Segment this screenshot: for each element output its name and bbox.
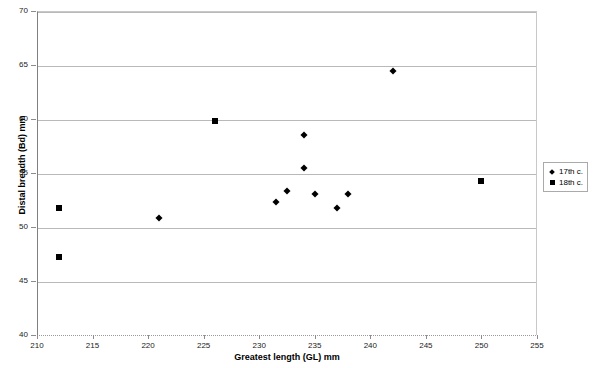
- x-tick-230: [259, 335, 260, 339]
- x-tick-label: 235: [295, 341, 335, 350]
- gridline-y-65: [38, 66, 536, 67]
- legend-item-18th-c[interactable]: 18th c.: [547, 177, 583, 188]
- y-tick-label: 45: [0, 276, 28, 285]
- gridline-y-70: [38, 12, 536, 13]
- chart-legend: 17th c. 18th c.: [543, 162, 588, 192]
- x-tick-label: 230: [239, 341, 279, 350]
- x-tick-210: [37, 335, 38, 339]
- x-tick-250: [481, 335, 482, 339]
- y-tick-label: 70: [0, 6, 28, 15]
- plot-area: [37, 11, 537, 335]
- y-tick-label: 55: [0, 168, 28, 177]
- y-tick-65: [31, 65, 36, 66]
- x-tick-255: [537, 335, 538, 339]
- x-tick-215: [93, 335, 94, 339]
- scatter-chart-figure: Greatest length (GL) mm Distal breadth (…: [0, 0, 594, 368]
- y-tick-label: 60: [0, 114, 28, 123]
- data-point: [478, 178, 484, 184]
- x-tick-label: 255: [517, 341, 557, 350]
- data-point: [56, 205, 62, 211]
- y-tick-60: [31, 119, 36, 120]
- x-tick-label: 225: [184, 341, 224, 350]
- y-tick-70: [31, 11, 36, 12]
- y-axis-title: Distal breadth (Bd) mm: [17, 65, 27, 265]
- x-axis-title: Greatest length (GL) mm: [0, 352, 574, 362]
- square-marker-icon: [547, 180, 557, 185]
- y-tick-55: [31, 173, 36, 174]
- legend-item-label: 17th c.: [557, 167, 583, 176]
- data-point: [56, 254, 62, 260]
- gridline-y-60: [38, 120, 536, 121]
- y-tick-50: [31, 227, 36, 228]
- x-tick-225: [204, 335, 205, 339]
- data-point: [212, 118, 218, 124]
- y-tick-label: 65: [0, 60, 28, 69]
- x-tick-245: [426, 335, 427, 339]
- y-tick-40: [31, 335, 36, 336]
- x-tick-label: 210: [17, 341, 57, 350]
- x-tick-label: 250: [461, 341, 501, 350]
- x-tick-240: [370, 335, 371, 339]
- x-tick-235: [315, 335, 316, 339]
- x-tick-label: 240: [350, 341, 390, 350]
- gridline-y-45: [38, 282, 536, 283]
- y-tick-45: [31, 281, 36, 282]
- y-tick-label: 40: [0, 330, 28, 339]
- y-tick-label: 50: [0, 222, 28, 231]
- legend-item-17th-c[interactable]: 17th c.: [547, 166, 583, 177]
- x-tick-220: [148, 335, 149, 339]
- gridline-y-55: [38, 174, 536, 175]
- x-axis-line: [37, 335, 538, 336]
- x-tick-label: 215: [73, 341, 113, 350]
- x-tick-label: 220: [128, 341, 168, 350]
- x-tick-label: 245: [406, 341, 446, 350]
- gridline-y-50: [38, 228, 536, 229]
- diamond-marker-icon: [547, 170, 557, 174]
- legend-item-label: 18th c.: [557, 178, 583, 187]
